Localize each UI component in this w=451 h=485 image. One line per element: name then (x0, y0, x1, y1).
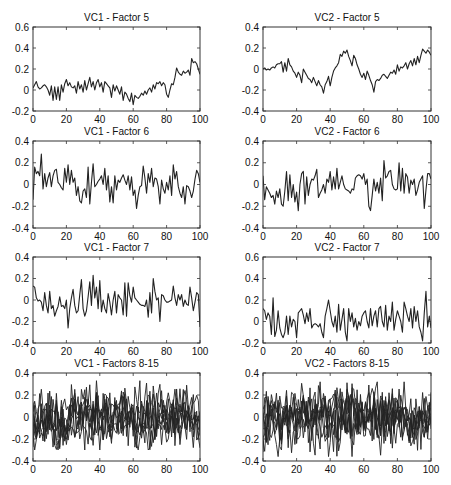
x-tick-label: 100 (423, 464, 440, 475)
y-tick-label: 0.4 (245, 368, 259, 379)
x-tick-label: 20 (291, 114, 303, 125)
x-tick-label: 40 (94, 231, 106, 242)
y-tick-label: 0.4 (245, 22, 259, 33)
y-tick-label: 0.2 (15, 390, 29, 401)
y-tick-label: -0.2 (12, 201, 30, 212)
x-tick-label: 60 (358, 114, 370, 125)
y-tick-label: 0.2 (245, 295, 259, 306)
x-tick-label: 40 (94, 464, 106, 475)
x-tick-label: 20 (291, 231, 303, 242)
x-tick-label: 100 (192, 114, 209, 125)
x-tick-label: 40 (325, 464, 337, 475)
y-tick-label: 0.2 (245, 390, 259, 401)
y-tick-label: -0.4 (12, 456, 30, 467)
x-tick-label: 60 (358, 346, 370, 357)
x-tick-label: 60 (128, 231, 140, 242)
y-tick-label: -0.2 (242, 434, 260, 445)
x-tick-label: 80 (392, 464, 404, 475)
y-tick-label: -0.2 (12, 106, 30, 117)
y-tick-label: 0 (253, 316, 259, 327)
y-tick-label: 0.4 (15, 136, 29, 147)
x-tick-label: 20 (61, 464, 73, 475)
x-tick-label: 40 (325, 346, 337, 357)
x-tick-label: 60 (128, 346, 140, 357)
y-tick-label: -0.2 (242, 85, 260, 96)
y-tick-label: -0.4 (242, 106, 260, 117)
x-tick-label: 60 (128, 464, 140, 475)
y-tick-label: 0.4 (15, 43, 29, 54)
y-tick-label: 0.6 (15, 22, 29, 33)
y-tick-label: 0.2 (245, 43, 259, 54)
x-tick-label: 80 (392, 231, 404, 242)
subplot-title: VC1 - Factor 5 (84, 12, 149, 23)
x-tick-label: 60 (128, 114, 140, 125)
y-tick-label: 0.4 (245, 273, 259, 284)
x-tick-label: 40 (94, 114, 106, 125)
y-tick-label: 0.4 (15, 252, 29, 263)
y-tick-label: 0.2 (245, 157, 259, 168)
x-tick-label: 20 (61, 231, 73, 242)
x-tick-label: 100 (423, 114, 440, 125)
y-tick-label: -0.4 (242, 223, 260, 234)
y-tick-label: 0 (253, 64, 259, 75)
y-tick-label: 0.2 (15, 157, 29, 168)
y-tick-label: 0 (23, 295, 29, 306)
x-tick-label: 100 (192, 464, 209, 475)
subplot-title: VC2 - Factor 5 (314, 12, 379, 23)
y-tick-label: -0.4 (12, 338, 30, 349)
x-tick-label: 100 (192, 231, 209, 242)
subplot-title: VC1 - Factor 7 (84, 242, 149, 253)
y-tick-label: 0.4 (15, 368, 29, 379)
subplot-title: VC2 - Factor 6 (314, 126, 379, 137)
x-tick-label: 100 (423, 231, 440, 242)
x-tick-label: 0 (30, 346, 36, 357)
x-tick-label: 20 (291, 346, 303, 357)
y-tick-label: 0.2 (15, 273, 29, 284)
x-tick-label: 80 (161, 231, 173, 242)
subplot-title: VC2 - Factors 8-15 (305, 358, 390, 369)
y-tick-label: -0.2 (242, 201, 260, 212)
x-tick-label: 40 (325, 231, 337, 242)
y-tick-label: -0.4 (242, 456, 260, 467)
y-tick-label: 0 (253, 412, 259, 423)
subplot-title: VC2 - Factor 7 (314, 242, 379, 253)
x-tick-label: 0 (260, 114, 266, 125)
y-tick-label: -0.2 (12, 434, 30, 445)
y-tick-label: -0.2 (242, 338, 260, 349)
x-tick-label: 80 (161, 114, 173, 125)
x-tick-label: 40 (94, 346, 106, 357)
x-tick-label: 40 (325, 114, 337, 125)
x-tick-label: 80 (392, 346, 404, 357)
y-tick-label: 0.2 (15, 64, 29, 75)
y-tick-label: 0.6 (245, 252, 259, 263)
figure: VC1 - Factor 5020406080100-0.200.20.40.6… (0, 0, 451, 485)
y-tick-label: -0.4 (12, 223, 30, 234)
y-tick-label: 0 (23, 85, 29, 96)
subplot-title: VC1 - Factor 6 (84, 126, 149, 137)
y-tick-label: 0 (23, 412, 29, 423)
x-tick-label: 60 (358, 464, 370, 475)
y-tick-label: 0 (23, 179, 29, 190)
x-tick-label: 0 (260, 464, 266, 475)
x-tick-label: 0 (260, 346, 266, 357)
subplot-title: VC1 - Factors 8-15 (74, 358, 159, 369)
x-tick-label: 80 (161, 346, 173, 357)
x-tick-label: 0 (30, 231, 36, 242)
y-tick-label: 0.4 (245, 136, 259, 147)
x-tick-label: 100 (423, 346, 440, 357)
y-tick-label: 0 (253, 179, 259, 190)
x-tick-label: 60 (358, 231, 370, 242)
x-tick-label: 0 (30, 464, 36, 475)
x-tick-label: 80 (161, 464, 173, 475)
y-tick-label: -0.2 (12, 316, 30, 327)
x-tick-label: 20 (61, 114, 73, 125)
x-tick-label: 100 (192, 346, 209, 357)
x-tick-label: 20 (291, 464, 303, 475)
x-tick-label: 80 (392, 114, 404, 125)
x-tick-label: 20 (61, 346, 73, 357)
x-tick-label: 0 (30, 114, 36, 125)
x-tick-label: 0 (260, 231, 266, 242)
